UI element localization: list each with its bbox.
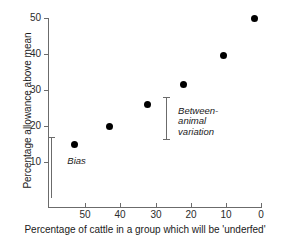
x-tick-label-20: 20 [185,209,196,220]
x-tick-label-50: 50 [79,209,90,220]
y-tick-50 [44,18,49,19]
data-point [251,15,258,22]
x-tick-50 [85,203,86,208]
between-animal-annotation-label: Between- animal variation [178,106,218,138]
bias-annotation-label: Bias [67,156,85,167]
x-tick-10 [226,203,227,208]
x-tick-label-40: 40 [114,209,125,220]
x-tick-label-30: 30 [150,209,161,220]
y-tick-40 [44,54,49,55]
between-animal-cap-bottom [163,139,170,140]
data-point [144,101,151,108]
x-axis-title: Percentage of cattle in a group which wi… [0,224,290,235]
x-tick-40 [120,203,121,208]
y-tick-20 [44,126,49,127]
between-animal-error-bar [163,97,170,140]
data-point [220,52,227,59]
x-tick-20 [191,203,192,208]
x-tick-0 [261,203,262,208]
scatter-chart: 50 40 30 20 10 50 40 30 20 10 0 Percenta… [0,0,290,242]
between-animal-stem [166,97,167,140]
x-tick-label-0: 0 [258,209,264,220]
data-point [106,123,113,130]
bias-stem [51,137,52,198]
y-axis-title: Percentage allowance above mean [22,21,33,201]
bias-error-bar [48,137,55,198]
x-tick-30 [156,203,157,208]
y-tick-30 [44,90,49,91]
x-tick-label-10: 10 [220,209,231,220]
data-point [71,141,78,148]
x-axis-line [48,207,262,208]
data-point [180,81,187,88]
